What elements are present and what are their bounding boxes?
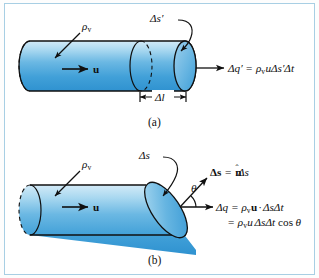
area-label-b: Δs: [138, 149, 151, 161]
angle-arc-b: [191, 196, 196, 207]
angle-label-b: θ: [191, 182, 197, 194]
equation-a: Δq′=ρvuΔs′Δt: [227, 62, 295, 76]
equation-b-line1: Δq=ρvu·ΔsΔt: [215, 201, 284, 215]
velocity-label-a: u: [93, 63, 99, 75]
area-label-a: Δs′: [149, 12, 164, 24]
figure-canvas: ρv u Δs′ Δq′=ρvuΔs′Δt Δl (a): [0, 0, 319, 278]
length-label-a: Δl: [154, 91, 165, 103]
cylinder-a-body: [19, 41, 196, 91]
vector-equation-b: Δs=n̂Δs: [210, 164, 249, 178]
equation-b-line2: =ρvuΔsΔtcosθ: [228, 216, 302, 230]
velocity-label-b: u: [93, 201, 99, 213]
cylinder-a-end-cap: [174, 41, 196, 91]
density-label-b: ρv: [81, 158, 91, 172]
cylinder-a: [19, 41, 196, 91]
figure-root: ρv u Δs′ Δq′=ρvuΔs′Δt Δl (a): [0, 0, 319, 278]
density-label-a: ρv: [81, 20, 91, 34]
panel-caption-b: (b): [148, 254, 162, 267]
panel-b: ρv u Δs θ Δs=n̂Δs Δq=ρvu·ΔsΔt: [19, 149, 302, 267]
panel-a: ρv u Δs′ Δq′=ρvuΔs′Δt Δl (a): [19, 12, 295, 129]
panel-caption-a: (a): [148, 116, 161, 129]
